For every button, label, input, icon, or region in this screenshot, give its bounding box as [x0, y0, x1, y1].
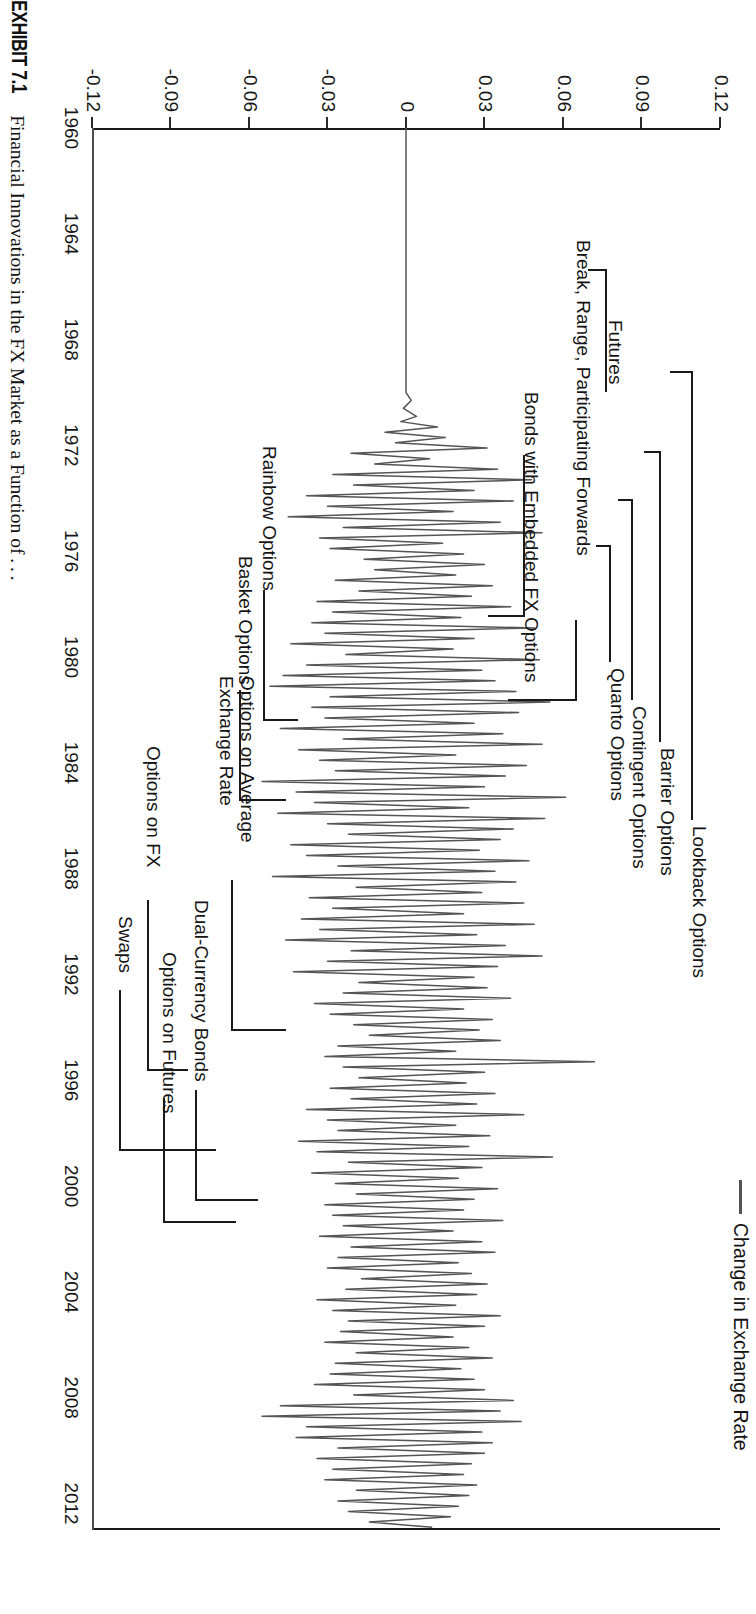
y-tick-label: 0.06 [553, 50, 575, 112]
y-tick [327, 117, 329, 128]
y-tick-label: 0.09 [632, 50, 654, 112]
legend-swatch [739, 1180, 742, 1214]
annotation-quanto: Quanto Options [607, 668, 628, 801]
x-tick-label: 1992 [60, 950, 82, 998]
annotation-basket: Basket Options [235, 556, 256, 685]
annotation-break-range: Break, Range, Participating Forwards [573, 240, 594, 556]
annotation-swaps: Swaps [115, 916, 136, 973]
y-tick-label: -0.09 [161, 50, 183, 112]
caption-text: Financial Innovations in the FX Market a… [7, 115, 28, 581]
chart-legend: Change in Exchange Rate [729, 1180, 752, 1451]
y-tick [170, 117, 172, 128]
figure-caption: EXHIBIT 7.1Financial Innovations in the … [6, 0, 28, 1614]
annotation-options-on-fx: Options on FX [143, 746, 164, 867]
y-tick-label: -0.06 [239, 50, 261, 112]
x-tick-label: 1996 [60, 1056, 82, 1104]
x-tick-label: 1976 [60, 527, 82, 575]
y-tick [719, 117, 721, 128]
x-tick-label: 1968 [60, 316, 82, 364]
y-tick [641, 117, 643, 128]
x-tick-label: 1988 [60, 845, 82, 893]
annotation-barrier: Barrier Options [657, 748, 678, 876]
x-tick-label: 2000 [60, 1162, 82, 1210]
y-tick-label: 0.03 [475, 50, 497, 112]
annotation-futures: Futures [605, 320, 626, 384]
annotation-options-avg-rate: Options on Average Exchange Rate [215, 676, 258, 886]
annotation-contingent: Contingent Options [629, 706, 650, 869]
annotation-dual-currency: Dual-Currency Bonds [191, 900, 212, 1082]
x-tick-label: 2004 [60, 1268, 82, 1316]
x-tick-label: 1980 [60, 633, 82, 681]
x-tick-label: 1960 [60, 104, 82, 152]
x-tick-label: 1972 [60, 421, 82, 469]
legend-label: Change in Exchange Rate [729, 1223, 752, 1451]
y-tick [562, 117, 564, 128]
y-tick-label: 0 [396, 50, 418, 112]
x-tick-label: 2008 [60, 1374, 82, 1422]
y-tick-label: -0.03 [318, 50, 340, 112]
y-tick-label: -0.12 [82, 50, 104, 112]
x-tick-label: 2012 [60, 1480, 82, 1528]
y-tick-label: 0.12 [710, 50, 732, 112]
y-tick [484, 117, 486, 128]
annotation-lookback: Lookback Options [689, 826, 710, 978]
annotation-bonds-embedded: Bonds with Embedded FX Options [521, 392, 542, 682]
figure-stage: -0.12-0.09-0.06-0.0300.030.060.090.12 19… [0, 0, 756, 1614]
y-tick [91, 117, 93, 128]
exhibit-number: EXHIBIT 7.1 [6, 0, 32, 93]
x-tick-label: 1984 [60, 739, 82, 787]
x-tick-label: 1964 [60, 210, 82, 258]
y-tick [248, 117, 250, 128]
y-tick [405, 117, 407, 128]
annotation-options-on-futures: Options on Futures [159, 952, 180, 1114]
annotation-rainbow: Rainbow Options [259, 446, 280, 591]
